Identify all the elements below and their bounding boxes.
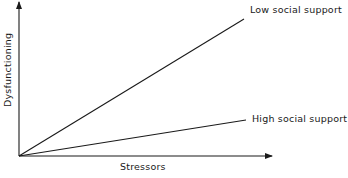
high-social-support-line: [19, 120, 246, 156]
y-axis-label: Dysfunctioning: [2, 33, 13, 107]
high-social-support-label: High social support: [252, 113, 347, 124]
low-social-support-label: Low social support: [250, 4, 342, 15]
diagram-canvas: [0, 0, 348, 178]
x-axis-label: Stressors: [120, 161, 166, 172]
low-social-support-line: [19, 19, 244, 156]
